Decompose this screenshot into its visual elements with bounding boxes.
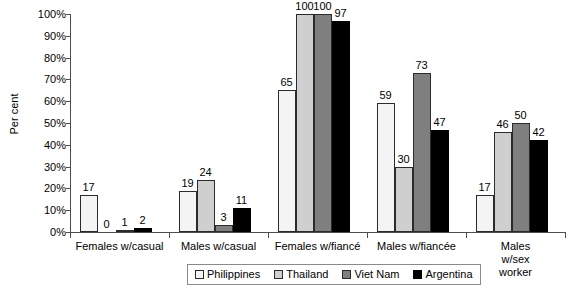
legend-item[interactable]: Thailand (274, 268, 328, 280)
y-tick-label: 90% (44, 30, 66, 42)
legend-label: Thailand (286, 268, 328, 280)
y-axis-line (70, 14, 71, 233)
bar-value-label: 73 (415, 59, 427, 71)
y-tick-label: 40% (44, 139, 66, 151)
y-axis-tick-labels: 0%10%20%30%40%50%60%70%80%90%100% (32, 0, 70, 240)
legend-swatch-icon (342, 270, 351, 279)
x-tick-mark (466, 233, 467, 238)
bar-value-label: 0 (103, 218, 109, 230)
bar-value-label: 65 (280, 76, 292, 88)
legend-label: Philippines (207, 268, 260, 280)
bar-value-label: 1 (121, 216, 127, 228)
bar (215, 225, 233, 232)
category-label: Males w/sex worker (488, 240, 544, 279)
x-tick-mark (70, 233, 71, 238)
x-tick-mark (367, 233, 368, 238)
y-tick-mark (66, 79, 70, 80)
bar-chart: Per cent 0%10%20%30%40%50%60%70%80%90%10… (0, 0, 571, 295)
bar (332, 21, 350, 232)
y-tick-label: 30% (44, 161, 66, 173)
bar (314, 14, 332, 232)
bar-value-label: 30 (397, 153, 409, 165)
category-label: Females w/casual (75, 240, 163, 253)
category-label: Females w/fiancé (275, 240, 361, 253)
legend-swatch-icon (274, 270, 283, 279)
bar-value-label: 50 (514, 109, 526, 121)
bar-value-label: 42 (532, 126, 544, 138)
y-tick-label: 60% (44, 95, 66, 107)
bar-value-label: 47 (433, 116, 445, 128)
y-axis-title: Per cent (8, 79, 20, 149)
x-axis-line (70, 232, 566, 233)
bar-value-label: 17 (478, 181, 490, 193)
y-tick-label: 0% (50, 226, 66, 238)
x-tick-mark (565, 233, 566, 238)
legend-swatch-icon (413, 270, 422, 279)
category-label: Males w/fiancée (377, 240, 456, 253)
y-tick-mark (66, 36, 70, 37)
bar (476, 195, 494, 232)
y-tick-label: 70% (44, 73, 66, 85)
bar-value-label: 100 (295, 0, 313, 12)
legend-label: Viet Nam (354, 268, 399, 280)
x-tick-mark (169, 233, 170, 238)
legend-label: Argentina (425, 268, 472, 280)
bar (278, 90, 296, 232)
legend-item[interactable]: Argentina (413, 268, 472, 280)
bar (413, 73, 431, 232)
bar (530, 140, 548, 232)
y-tick-mark (66, 123, 70, 124)
bar-value-label: 19 (181, 177, 193, 189)
bar (197, 180, 215, 232)
bar (296, 14, 314, 232)
legend-item[interactable]: Viet Nam (342, 268, 399, 280)
y-tick-mark (66, 210, 70, 211)
bar-value-label: 46 (496, 118, 508, 130)
bar (395, 167, 413, 232)
bar (134, 228, 152, 232)
bar (116, 230, 134, 232)
y-tick-mark (66, 58, 70, 59)
bar (431, 130, 449, 232)
chart-legend: PhilippinesThailandViet NamArgentina (187, 264, 481, 285)
bar-value-label: 3 (220, 211, 226, 223)
plot-area: 17012192431165100100975930734717465042 (70, 14, 565, 232)
y-tick-label: 100% (38, 8, 66, 20)
y-tick-label: 80% (44, 52, 66, 64)
bar (233, 208, 251, 232)
category-label: Males w/casual (181, 240, 256, 253)
y-tick-label: 20% (44, 182, 66, 194)
y-tick-mark (66, 14, 70, 15)
x-tick-mark (268, 233, 269, 238)
bar-value-label: 59 (379, 89, 391, 101)
bar-value-label: 97 (334, 7, 346, 19)
bar-value-label: 11 (236, 194, 247, 206)
bar-value-label: 100 (313, 0, 331, 12)
bar-value-label: 17 (82, 181, 94, 193)
legend-item[interactable]: Philippines (195, 268, 260, 280)
y-tick-mark (66, 167, 70, 168)
y-tick-mark (66, 188, 70, 189)
bar (494, 132, 512, 232)
bar-value-label: 2 (139, 214, 145, 226)
y-tick-label: 50% (44, 117, 66, 129)
bar (512, 123, 530, 232)
y-tick-mark (66, 145, 70, 146)
bar-value-label: 24 (199, 166, 211, 178)
bar (377, 103, 395, 232)
bar (80, 195, 98, 232)
y-tick-mark (66, 101, 70, 102)
bar (179, 191, 197, 232)
y-tick-label: 10% (44, 204, 66, 216)
legend-swatch-icon (195, 270, 204, 279)
